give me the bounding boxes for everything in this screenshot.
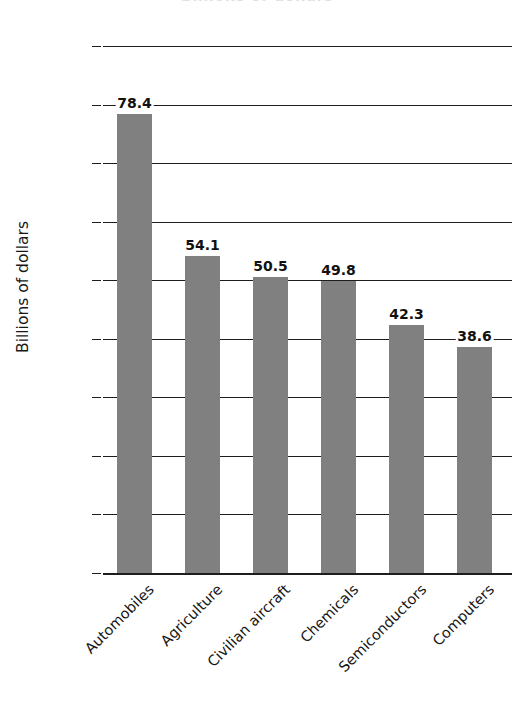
x-axis-category-label: Chemicals <box>298 582 361 645</box>
y-axis-title: Billions of dollars <box>0 0 46 573</box>
y-axis-tick <box>92 46 101 47</box>
gridline <box>103 222 512 223</box>
bar-value-label: 54.1 <box>183 238 222 252</box>
bar-value-label: 50.5 <box>251 259 290 273</box>
x-axis-category-label: Computers <box>430 582 497 649</box>
cropped-chart-title-text: Billions of dollars <box>181 0 334 5</box>
bar <box>185 256 220 573</box>
bar-chart-figure: Billions of dollars Billions of dollars … <box>0 0 514 724</box>
cropped-chart-title: Billions of dollars <box>0 0 514 10</box>
y-axis-tick <box>92 163 101 164</box>
x-axis-category-label: Automobiles <box>83 582 157 656</box>
gridline <box>103 46 512 47</box>
bar <box>117 114 152 573</box>
bar-value-label: 78.4 <box>115 96 154 110</box>
gridline <box>103 163 512 164</box>
y-axis-tick <box>92 514 101 515</box>
y-axis-tick <box>92 573 101 574</box>
gridline <box>103 280 512 281</box>
bar-value-label: 38.6 <box>455 329 494 343</box>
y-axis-tick <box>92 222 101 223</box>
bar-value-label: 42.3 <box>387 307 426 321</box>
bar <box>457 347 492 573</box>
gridline <box>103 105 512 106</box>
y-axis-tick <box>92 456 101 457</box>
bar-value-label: 49.8 <box>319 263 358 277</box>
y-axis-tick <box>92 397 101 398</box>
gridline <box>103 514 512 515</box>
y-axis-tick <box>92 339 101 340</box>
y-axis-tick <box>92 105 101 106</box>
plot-area: 908070605040302010078.454.150.549.842.33… <box>103 46 512 573</box>
gridline <box>103 456 512 457</box>
gridline <box>103 397 512 398</box>
bar <box>389 325 424 573</box>
bar <box>321 281 356 573</box>
gridline <box>103 339 512 340</box>
y-axis-title-text: Billions of dollars <box>14 221 32 353</box>
axis-baseline <box>103 573 512 575</box>
bar <box>253 277 288 573</box>
y-axis-tick <box>92 280 101 281</box>
x-axis-category-label: Agriculture <box>158 582 225 649</box>
